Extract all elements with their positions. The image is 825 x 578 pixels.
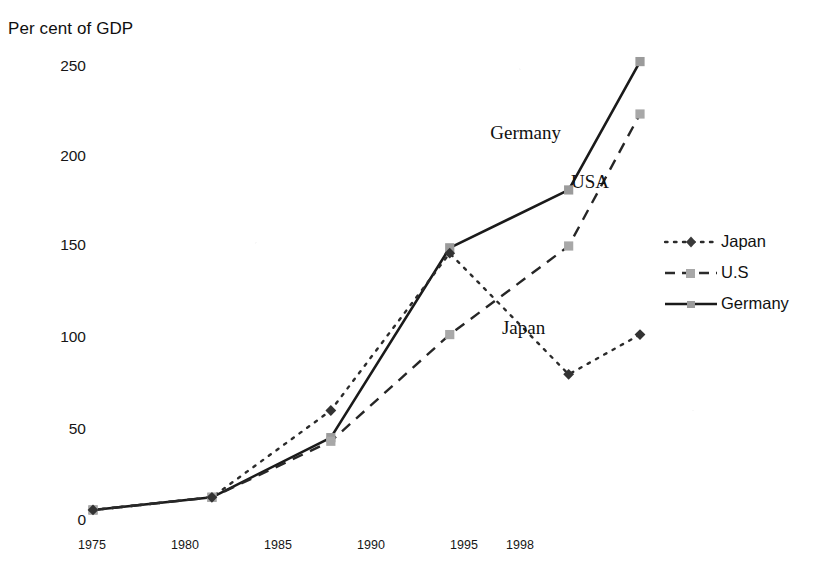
series-us-markers <box>88 109 644 514</box>
legend-label-us: U.S <box>718 263 749 282</box>
legend-label-germany: Germany <box>718 294 789 313</box>
series-us-line <box>93 114 640 510</box>
legend-item-japan[interactable]: Japan <box>664 226 822 257</box>
legend-key-us-icon <box>664 265 718 281</box>
legend-key-japan-icon <box>664 234 718 250</box>
legend-item-us[interactable]: U.S <box>664 257 822 288</box>
legend-label-japan: Japan <box>718 232 766 251</box>
annotation-usa: USA <box>571 171 609 193</box>
legend-item-germany[interactable]: Germany <box>664 288 822 319</box>
annotation-japan: Japan <box>502 317 545 339</box>
chart-legend: Japan U.S Germany <box>664 226 822 319</box>
legend-key-germany-icon <box>664 296 718 312</box>
series-germany-markers <box>88 57 644 515</box>
line-chart: Per cent of GDP 250 200 150 100 50 0 197… <box>0 0 825 578</box>
annotation-germany: Germany <box>490 122 561 144</box>
